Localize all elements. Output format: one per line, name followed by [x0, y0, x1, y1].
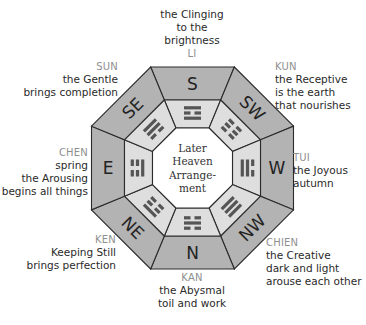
- center-label-line: Arrange-: [168, 169, 217, 181]
- label-li: the Clinging to the brightness LI: [140, 8, 244, 60]
- label-tui: TUI the Joyous autumn: [293, 151, 361, 190]
- label-kan: KAN the Abysmal toil and work: [140, 271, 244, 310]
- chen-name: CHEN: [0, 146, 88, 159]
- sun-desc-1: the Gentle: [10, 73, 118, 86]
- center-label-line: ment: [179, 182, 207, 194]
- kun-desc-1: the Receptive: [275, 73, 365, 86]
- label-kun: KUN the Receptive is the earth that nour…: [275, 60, 365, 112]
- direction-label-s: S: [187, 74, 198, 94]
- ken-desc-1: Keeping Still: [0, 246, 116, 259]
- kun-desc-2: is the earth: [275, 86, 365, 99]
- label-sun: SUN the Gentle brings completion: [10, 60, 118, 99]
- center-label-line: Heaven: [172, 155, 213, 167]
- kun-desc-3: that nourishes: [275, 99, 365, 112]
- tui-desc-2: autumn: [293, 177, 361, 190]
- li-desc-3: brightness: [140, 34, 244, 47]
- chien-name: CHIEN: [266, 236, 366, 249]
- chien-desc-1: the Creative: [266, 249, 366, 262]
- center-label-line: Later: [178, 142, 208, 154]
- chien-desc-3: arouse each other: [266, 275, 366, 288]
- kun-name: KUN: [275, 60, 365, 73]
- ken-name: KEN: [0, 233, 116, 246]
- li-name: LI: [140, 47, 244, 60]
- chen-desc-3: begins all things: [0, 185, 88, 198]
- tui-name: TUI: [293, 151, 361, 164]
- li-desc-2: to the: [140, 21, 244, 34]
- ken-desc-2: brings perfection: [0, 259, 116, 272]
- sun-desc-2: brings completion: [10, 86, 118, 99]
- kan-name: KAN: [140, 271, 244, 284]
- label-ken: KEN Keeping Still brings perfection: [0, 233, 116, 272]
- direction-label-n: N: [186, 243, 199, 263]
- kan-desc-2: toil and work: [140, 297, 244, 310]
- chien-desc-2: dark and light: [266, 262, 366, 275]
- direction-label-e: E: [103, 158, 114, 178]
- chen-desc-2: the Arousing: [0, 172, 88, 185]
- li-desc-1: the Clinging: [140, 8, 244, 21]
- kan-desc-1: the Abysmal: [140, 284, 244, 297]
- sun-name: SUN: [10, 60, 118, 73]
- tui-desc-1: the Joyous: [293, 164, 361, 177]
- chen-desc-1: spring: [0, 159, 88, 172]
- direction-label-w: W: [269, 158, 286, 178]
- label-chen: CHEN spring the Arousing begins all thin…: [0, 146, 88, 198]
- label-chien: CHIEN the Creative dark and light arouse…: [266, 236, 366, 288]
